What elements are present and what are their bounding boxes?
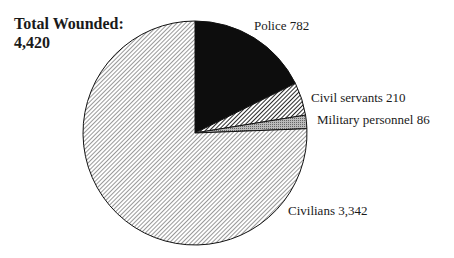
pie-chart (0, 0, 454, 258)
pie-slices (83, 21, 307, 245)
label-civil-servants: Civil servants 210 (311, 90, 406, 106)
label-military: Military personnel 86 (317, 112, 430, 128)
label-police: Police 782 (254, 18, 309, 34)
label-civilians: Civilians 3,342 (288, 203, 367, 219)
